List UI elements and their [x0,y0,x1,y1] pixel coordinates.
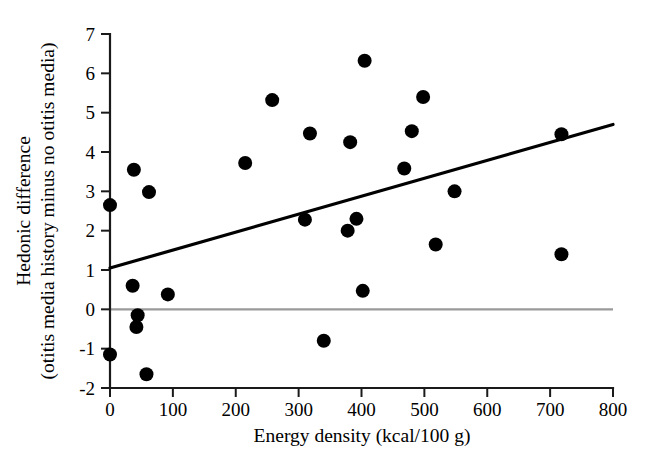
data-point [397,162,411,176]
y-tick-label-5: 5 [86,102,96,123]
x-tick-label-600: 600 [473,399,502,420]
y-axis-title-line2: (otitis media history minus no otitis me… [37,43,59,380]
data-point [429,237,443,251]
data-point [161,287,175,301]
data-points-group [103,54,568,381]
y-tick-label-4: 4 [86,142,96,163]
data-point [265,93,279,107]
y-tick-label--2: -2 [79,378,95,399]
plot-canvas: -2-101234567 0100200300400500600700800 E… [0,0,672,459]
data-point [127,163,141,177]
y-tick-label-7: 7 [86,24,96,45]
y-tick-label-1: 1 [86,260,96,281]
x-axis-tick-labels: 0100200300400500600700800 [105,399,627,420]
data-point [139,367,153,381]
data-point [317,334,331,348]
data-point [303,127,317,141]
x-tick-label-0: 0 [105,399,115,420]
y-tick-label-6: 6 [86,63,96,84]
data-point [298,213,312,227]
data-point [126,279,140,293]
y-axis-tick-labels: -2-101234567 [79,24,95,399]
data-point [103,348,117,362]
data-point [341,224,355,238]
data-point [142,185,156,199]
x-tick-label-800: 800 [599,399,628,420]
y-tick-label-0: 0 [86,299,96,320]
data-point [554,127,568,141]
y-axis-title-line1: Hedonic difference [13,136,34,286]
data-point [448,184,462,198]
y-tick-label-3: 3 [86,181,96,202]
x-tick-label-300: 300 [284,399,313,420]
x-tick-label-700: 700 [536,399,565,420]
x-axis-title: Energy density (kcal/100 g) [254,425,471,447]
y-tick-label-2: 2 [86,220,96,241]
x-tick-label-500: 500 [410,399,439,420]
data-point [358,54,372,68]
data-point [405,124,419,138]
x-tick-label-400: 400 [347,399,376,420]
data-point [416,90,430,104]
y-tick-label--1: -1 [79,338,95,359]
data-point [349,212,363,226]
x-tick-label-200: 200 [222,399,251,420]
x-axis-ticks [110,388,613,397]
scatter-plot-figure: -2-101234567 0100200300400500600700800 E… [0,0,672,459]
x-tick-label-100: 100 [159,399,188,420]
data-point [131,308,145,322]
data-point [238,156,252,170]
data-point [103,198,117,212]
data-point [343,135,357,149]
data-point [554,247,568,261]
regression-line [110,124,613,268]
data-point [129,320,143,334]
axis-lines [110,34,613,388]
data-point [356,284,370,298]
